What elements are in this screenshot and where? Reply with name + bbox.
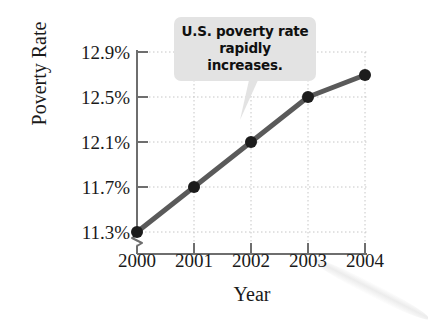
x-axis-title: Year bbox=[137, 283, 367, 306]
callout-line-2: rapidly increases. bbox=[181, 40, 309, 74]
x-tick-label-2002: 2002 bbox=[221, 251, 281, 270]
callout-line-1: U.S. poverty rate bbox=[181, 23, 309, 40]
y-axis-ticks bbox=[137, 52, 148, 187]
poverty-rate-callout: U.S. poverty rate rapidly increases. bbox=[174, 17, 316, 81]
data-point-2003 bbox=[302, 91, 314, 103]
data-point-2004 bbox=[359, 69, 371, 81]
data-point-2000 bbox=[131, 226, 143, 238]
data-point-2002 bbox=[245, 136, 257, 148]
x-tick-label-2001: 2001 bbox=[164, 251, 224, 270]
x-axis-tick-labels: 2000 2001 2002 2003 2004 bbox=[0, 251, 418, 281]
x-tick-label-2000: 2000 bbox=[107, 251, 167, 270]
x-tick-label-2004: 2004 bbox=[335, 251, 395, 270]
data-point-2001 bbox=[188, 181, 200, 193]
x-tick-label-2003: 2003 bbox=[278, 251, 338, 270]
